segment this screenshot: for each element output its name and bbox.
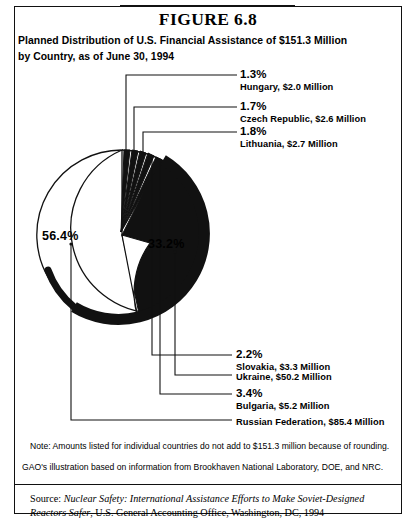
source-divider-rule bbox=[15, 484, 401, 485]
callout-slovakia-percent: 2.2% bbox=[236, 348, 330, 360]
callout-russian-federation: Russian Federation, $85.4 Million bbox=[236, 415, 384, 428]
callout-ukraine: Ukraine, $50.2 Million bbox=[236, 370, 332, 383]
note-attribution: GAO's illustration based on information … bbox=[22, 461, 383, 473]
source-prefix: Source: bbox=[30, 493, 64, 504]
callout-hungary: 1.3% Hungary, $2.0 Million bbox=[240, 68, 333, 93]
callout-lithuania-desc: Lithuania, $2.7 Million bbox=[240, 138, 338, 150]
callout-lithuania: 1.8% Lithuania, $2.7 Million bbox=[240, 125, 338, 150]
callout-russia-desc: Russian Federation, $85.4 Million bbox=[236, 416, 384, 428]
pie-label-russian-federation-percent: 56.4% bbox=[42, 229, 78, 243]
callout-czech-republic: 1.7% Czech Republic, $2.6 Million bbox=[240, 100, 366, 125]
callout-hungary-percent: 1.3% bbox=[240, 68, 333, 80]
callout-hungary-desc: Hungary, $2.0 Million bbox=[240, 81, 333, 93]
source-citation: Source: Nuclear Safety: International As… bbox=[30, 492, 380, 519]
pie-label-ukraine-percent: 33.2% bbox=[148, 237, 184, 251]
source-title-part2: Reactors Safer bbox=[30, 507, 90, 518]
callout-lithuania-percent: 1.8% bbox=[240, 125, 338, 137]
source-title-part1: Nuclear Safety: International Assistance… bbox=[64, 493, 365, 504]
source-rest: , U.S. General Accounting Office, Washin… bbox=[90, 507, 324, 518]
leader-line-czech-republic bbox=[134, 107, 237, 152]
note-rounding: Note: Amounts listed for individual coun… bbox=[30, 440, 389, 452]
callout-bulgaria: 3.4% Bulgaria, $5.2 Million bbox=[236, 387, 330, 412]
leader-line-lithuania bbox=[143, 132, 237, 154]
callout-bulgaria-percent: 3.4% bbox=[236, 387, 330, 399]
callout-czech-percent: 1.7% bbox=[240, 100, 366, 112]
callout-bulgaria-desc: Bulgaria, $5.2 Million bbox=[236, 400, 330, 412]
callout-czech-desc: Czech Republic, $2.6 Million bbox=[240, 113, 366, 125]
callout-ukraine-desc: Ukraine, $50.2 Million bbox=[236, 371, 332, 383]
